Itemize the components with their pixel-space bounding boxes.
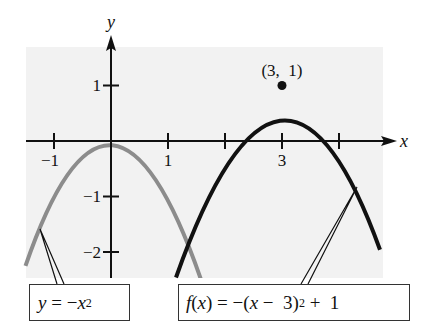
eq2-x2: x xyxy=(250,292,258,314)
tick-label-x-1: 1 xyxy=(164,151,173,170)
eq2-tail: + 1 xyxy=(305,292,339,314)
vertex-label: (3, 1) xyxy=(261,61,302,80)
equation-label-y-neg-x-squared: y = − x 2 xyxy=(29,284,130,321)
eq1-equals: = − xyxy=(46,292,77,314)
eq2-mid: ) = −( xyxy=(206,292,250,314)
eq2-rest: − 3) xyxy=(258,292,299,314)
eq1-var: x xyxy=(77,292,85,314)
tick-label-x-3: 3 xyxy=(278,151,287,170)
eq2-x1: x xyxy=(198,292,206,314)
tick-label-y-neg1: −1 xyxy=(83,187,101,206)
equation-label-f-of-x: f ( x ) = −( x − 3) 2 + 1 xyxy=(178,284,410,321)
vertex-point xyxy=(278,81,287,90)
tick-label-y-neg2: −2 xyxy=(83,243,101,262)
tick-label-x-neg1: −1 xyxy=(41,151,59,170)
eq1-lhs: y xyxy=(38,292,46,314)
x-axis-label: x xyxy=(399,131,408,151)
y-axis-label: y xyxy=(105,12,115,32)
tick-label-y-1: 1 xyxy=(93,76,102,95)
